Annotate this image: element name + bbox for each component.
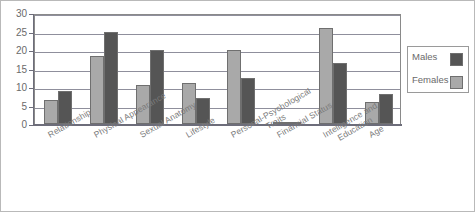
y-axis-tick-label: 0 — [3, 120, 27, 130]
legend-item[interactable]: Females — [408, 71, 468, 94]
chart-legend: MalesFemales — [407, 46, 469, 93]
y-axis-tick-label: 20 — [3, 46, 27, 56]
y-axis-tick-label: 5 — [3, 102, 27, 112]
legend-label: Females — [412, 75, 448, 85]
bar-females — [44, 100, 58, 124]
y-axis-tick-label: 30 — [3, 9, 27, 19]
legend-swatch-males — [450, 53, 463, 66]
legend-item[interactable]: Males — [408, 48, 468, 71]
y-axis-tick-label: 25 — [3, 28, 27, 38]
bar-males — [333, 63, 347, 124]
bar-group — [90, 13, 118, 124]
bar-males — [150, 50, 164, 124]
bar-group — [44, 13, 72, 124]
plot-area — [34, 14, 401, 125]
y-axis-tick-label: 10 — [3, 83, 27, 93]
chart-figure: 302520151050 RelationshipPhysical Appear… — [0, 0, 475, 212]
y-axis-tick-label: 15 — [3, 65, 27, 75]
bar-females — [227, 50, 241, 124]
legend-label: Males — [412, 52, 437, 62]
legend-swatch-females — [450, 76, 463, 89]
bar-males — [104, 32, 118, 125]
bar-males — [379, 94, 393, 124]
bar-group — [227, 13, 255, 124]
